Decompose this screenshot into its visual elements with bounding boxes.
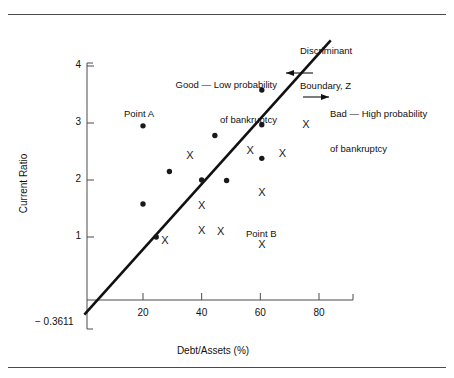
annotation-bad-region: Bad — High probability of bankruptcy (330, 85, 446, 177)
marker-dot (154, 234, 159, 239)
label-point-b: Point B (246, 228, 277, 240)
x-tick-label: 60 (246, 307, 274, 318)
x-tick-label: 20 (129, 307, 157, 318)
marker-dot (224, 178, 229, 183)
annotation-bad-line2: of bankruptcy (330, 143, 446, 155)
y-axis-line (87, 63, 93, 329)
marker-x: X (279, 147, 287, 159)
marker-x: X (161, 234, 169, 246)
label-point-a: Point A (124, 108, 154, 120)
marker-x: X (186, 149, 194, 161)
marker-dot (167, 169, 172, 174)
y-tick-label: 4 (65, 59, 81, 70)
x-axis-label: Debt/Assets (%) (133, 345, 293, 356)
annotation-bad-line1: Bad — High probability (330, 108, 446, 120)
x-tick-label: 40 (188, 307, 216, 318)
x-tick-label: 80 (305, 307, 333, 318)
annotation-good-line2: of bankruptcy (165, 114, 277, 126)
x-axis-line (87, 294, 353, 300)
marker-x: X (258, 186, 266, 198)
marker-dot (140, 201, 145, 206)
figure-container: XXXXXXXXXX Current Ratio Debt/Assets (%)… (0, 0, 454, 378)
marker-dot (140, 123, 145, 128)
marker-x: X (258, 238, 266, 250)
y-tick-label: 1 (65, 230, 81, 241)
y-axis-label: Current Ratio (18, 139, 29, 229)
good-arrow-head (286, 70, 294, 76)
y-axis-origin-label: − 0.3611 (35, 316, 73, 327)
annotation-good-line1: Good — Low probability (165, 79, 277, 91)
annotation-discriminant-line1: Discriminant (300, 45, 352, 57)
marker-x: X (198, 199, 206, 211)
marker-dot (259, 156, 264, 161)
y-tick-label: 3 (65, 116, 81, 127)
y-tick-label: 2 (65, 173, 81, 184)
annotation-good-region: Good — Low probability of bankruptcy (165, 56, 277, 148)
marker-dot (199, 177, 204, 182)
marker-x: X (217, 225, 225, 237)
marker-x: X (302, 118, 310, 130)
marker-x: X (198, 224, 206, 236)
